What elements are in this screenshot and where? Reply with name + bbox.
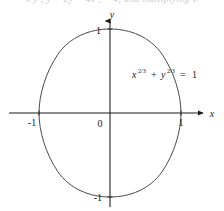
equation-annotation: x 2/3 + y 2/3 = 1 — [131, 67, 197, 80]
equation-exponent-x: 2/3 — [138, 67, 146, 74]
x-axis-label: x — [209, 108, 215, 119]
ytick-label-neg-one: -1 — [94, 192, 102, 203]
equation-rhs-value: 1 — [192, 69, 197, 80]
equation-plus-sign: + — [151, 69, 157, 80]
y-axis-label: y — [109, 9, 115, 20]
xtick-label-pos-one: 1 — [179, 117, 184, 128]
equation-var-y: y — [160, 69, 166, 80]
equation-var-x: x — [131, 69, 137, 80]
equation-equals-sign: = — [180, 69, 186, 80]
equation-exponent-y: 2/3 — [167, 67, 175, 74]
xtick-label-neg-one: -1 — [28, 117, 36, 128]
ytick-label-pos-one: 1 — [96, 25, 101, 36]
origin-label: 0 — [98, 118, 103, 129]
plot-canvas: -1 1 0 1 -1 y x x 2/3 + y 2/3 = 1 — [0, 0, 224, 211]
astroid-figure: x y , y + 2y = 4x , = 4, and multiplying… — [0, 0, 224, 211]
